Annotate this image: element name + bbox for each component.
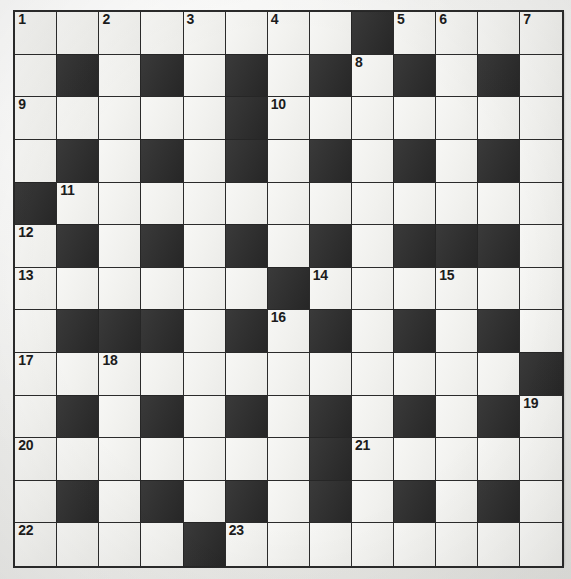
crossword-cell[interactable] [183, 54, 227, 98]
crossword-cell[interactable]: 7 [519, 11, 563, 55]
crossword-cell[interactable]: 21 [351, 437, 395, 481]
crossword-cell[interactable] [351, 352, 395, 396]
crossword-cell[interactable] [225, 267, 269, 311]
crossword-cell[interactable] [351, 522, 395, 566]
crossword-cell[interactable]: 1 [14, 11, 58, 55]
crossword-cell[interactable] [140, 182, 184, 226]
crossword-cell[interactable] [267, 480, 311, 524]
crossword-cell[interactable] [351, 96, 395, 140]
crossword-cell[interactable] [435, 54, 479, 98]
crossword-cell[interactable] [140, 96, 184, 140]
crossword-cell[interactable] [183, 267, 227, 311]
crossword-cell[interactable] [435, 139, 479, 183]
crossword-cell[interactable]: 8 [351, 54, 395, 98]
crossword-cell[interactable]: 17 [14, 352, 58, 396]
crossword-cell[interactable] [267, 139, 311, 183]
crossword-cell[interactable] [393, 96, 437, 140]
crossword-cell[interactable] [14, 480, 58, 524]
crossword-cell[interactable] [435, 437, 479, 481]
crossword-cell[interactable] [183, 480, 227, 524]
crossword-cell[interactable] [14, 395, 58, 439]
crossword-cell[interactable] [519, 96, 563, 140]
crossword-cell[interactable] [393, 522, 437, 566]
crossword-cell[interactable] [393, 182, 437, 226]
crossword-cell[interactable] [519, 309, 563, 353]
crossword-cell[interactable] [225, 11, 269, 55]
crossword-cell[interactable] [477, 437, 521, 481]
crossword-cell[interactable] [519, 267, 563, 311]
crossword-cell[interactable]: 2 [98, 11, 142, 55]
crossword-cell[interactable]: 12 [14, 224, 58, 268]
crossword-cell[interactable]: 23 [225, 522, 269, 566]
crossword-cell[interactable] [519, 224, 563, 268]
crossword-cell[interactable] [183, 352, 227, 396]
crossword-cell[interactable] [519, 182, 563, 226]
crossword-cell[interactable] [267, 522, 311, 566]
crossword-cell[interactable] [351, 224, 395, 268]
crossword-cell[interactable] [519, 139, 563, 183]
crossword-cell[interactable]: 14 [309, 267, 353, 311]
crossword-cell[interactable] [98, 267, 142, 311]
crossword-cell[interactable]: 6 [435, 11, 479, 55]
crossword-cell[interactable] [56, 11, 100, 55]
crossword-cell[interactable] [435, 480, 479, 524]
crossword-cell[interactable]: 20 [14, 437, 58, 481]
crossword-cell[interactable] [183, 437, 227, 481]
crossword-cell[interactable] [309, 11, 353, 55]
crossword-cell[interactable] [225, 182, 269, 226]
crossword-cell[interactable] [351, 267, 395, 311]
crossword-grid[interactable]: 1234567891011121314151617181920212223 [13, 10, 564, 568]
crossword-cell[interactable] [183, 224, 227, 268]
crossword-cell[interactable] [393, 437, 437, 481]
crossword-cell[interactable] [56, 96, 100, 140]
crossword-cell[interactable] [435, 96, 479, 140]
crossword-cell[interactable] [225, 437, 269, 481]
crossword-cell[interactable] [435, 395, 479, 439]
crossword-cell[interactable] [519, 480, 563, 524]
crossword-cell[interactable] [14, 139, 58, 183]
crossword-cell[interactable]: 22 [14, 522, 58, 566]
crossword-cell[interactable] [140, 522, 184, 566]
crossword-cell[interactable] [435, 309, 479, 353]
crossword-cell[interactable] [351, 182, 395, 226]
crossword-cell[interactable] [140, 437, 184, 481]
crossword-cell[interactable] [435, 182, 479, 226]
crossword-cell[interactable]: 11 [56, 182, 100, 226]
crossword-cell[interactable]: 5 [393, 11, 437, 55]
crossword-cell[interactable] [351, 395, 395, 439]
crossword-cell[interactable] [140, 267, 184, 311]
crossword-cell[interactable]: 10 [267, 96, 311, 140]
crossword-cell[interactable] [56, 352, 100, 396]
crossword-cell[interactable]: 9 [14, 96, 58, 140]
crossword-cell[interactable] [183, 139, 227, 183]
crossword-cell[interactable] [183, 96, 227, 140]
crossword-cell[interactable] [98, 437, 142, 481]
crossword-cell[interactable] [14, 54, 58, 98]
crossword-cell[interactable] [267, 395, 311, 439]
crossword-cell[interactable] [393, 352, 437, 396]
crossword-cell[interactable] [351, 309, 395, 353]
crossword-cell[interactable]: 16 [267, 309, 311, 353]
crossword-cell[interactable] [98, 96, 142, 140]
crossword-cell[interactable] [519, 54, 563, 98]
crossword-cell[interactable] [140, 11, 184, 55]
crossword-cell[interactable] [98, 182, 142, 226]
crossword-cell[interactable]: 13 [14, 267, 58, 311]
crossword-cell[interactable] [267, 54, 311, 98]
crossword-cell[interactable] [183, 182, 227, 226]
crossword-cell[interactable] [435, 522, 479, 566]
crossword-cell[interactable] [267, 352, 311, 396]
crossword-cell[interactable] [309, 182, 353, 226]
crossword-cell[interactable] [98, 395, 142, 439]
crossword-cell[interactable] [519, 522, 563, 566]
crossword-cell[interactable] [98, 480, 142, 524]
crossword-cell[interactable]: 15 [435, 267, 479, 311]
crossword-cell[interactable] [14, 309, 58, 353]
crossword-cell[interactable]: 18 [98, 352, 142, 396]
crossword-cell[interactable] [477, 11, 521, 55]
crossword-cell[interactable] [477, 182, 521, 226]
crossword-cell[interactable] [393, 267, 437, 311]
crossword-cell[interactable] [56, 437, 100, 481]
crossword-cell[interactable] [267, 182, 311, 226]
crossword-cell[interactable] [98, 54, 142, 98]
